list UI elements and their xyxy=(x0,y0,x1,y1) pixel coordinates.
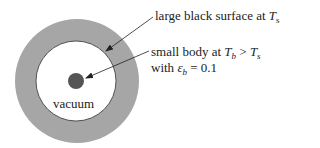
surface-temp-sub: s xyxy=(276,15,280,25)
body-label-line2: with εb = 0.1 xyxy=(151,60,217,80)
emissivity-value: = 0.1 xyxy=(187,60,217,75)
surface-label-text: large black surface at xyxy=(155,8,269,23)
surface-temp-sub-2: s xyxy=(257,51,261,61)
greater-than: > xyxy=(236,44,250,59)
surface-label: large black surface at Ts xyxy=(155,8,280,28)
body-temp-var: T xyxy=(224,44,231,59)
vacuum-label: vacuum xyxy=(53,96,94,111)
with-text: with xyxy=(151,60,177,75)
body-label-text: small body at xyxy=(151,44,224,59)
surface-temp-var: T xyxy=(269,8,276,23)
small-body xyxy=(68,73,84,89)
